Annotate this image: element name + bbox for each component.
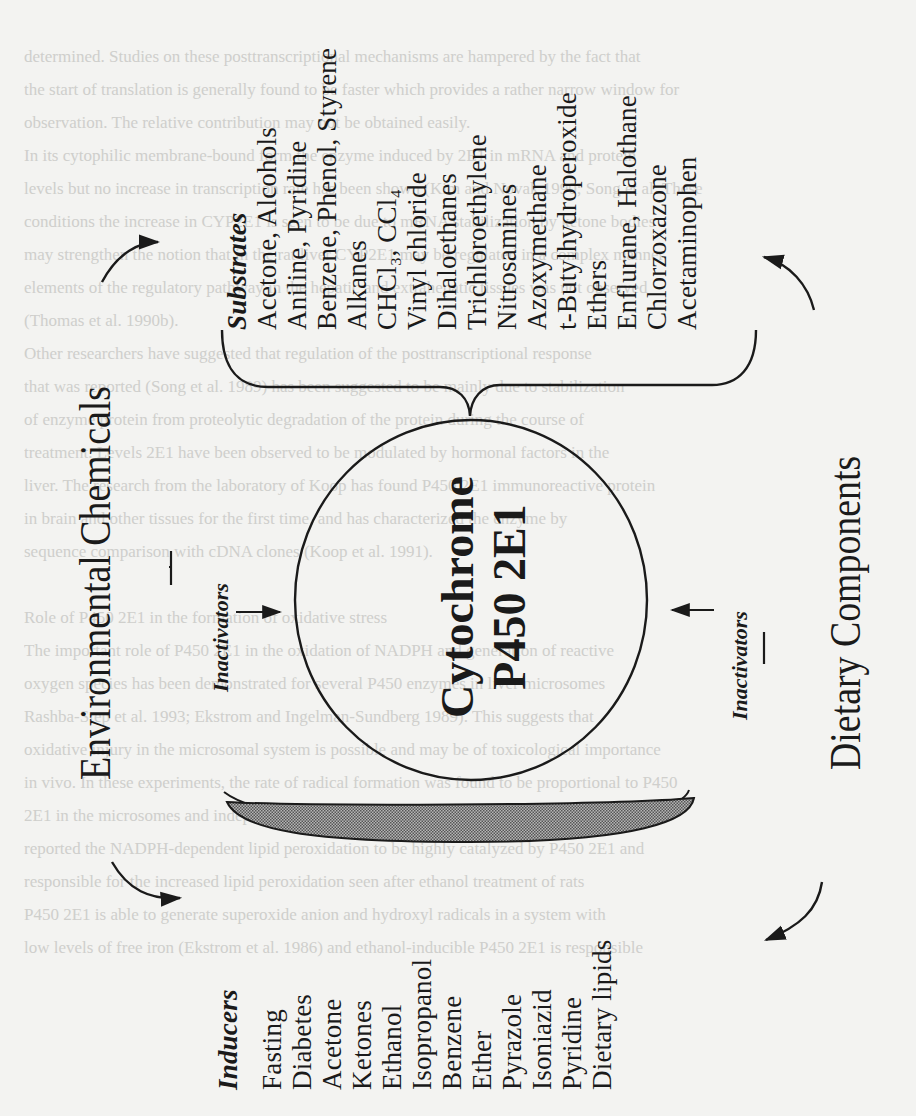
inactivators-right-label: Inactivators <box>727 611 753 720</box>
enzyme-label-line2: P450 2E1 <box>484 452 536 742</box>
substrate-item: Aniline, Pyridine <box>282 48 312 330</box>
membrane-lens <box>227 798 694 842</box>
substrate-item: Dihaloethanes <box>432 48 462 330</box>
substrate-item: Enflurane, Halothane <box>612 48 642 330</box>
substrate-item: Azoxymethane <box>522 48 552 330</box>
arrow-diet-to-inducers <box>766 882 822 940</box>
inducer-item: Dietary lipids <box>587 939 617 1090</box>
environmental-chemicals-label: Environmental Chemicals <box>70 386 121 780</box>
substrate-item: Benzene, Phenol, Styrene <box>312 48 342 330</box>
substrate-item: Vinyl chloride <box>402 48 432 330</box>
inducer-item: Pyrazole <box>497 939 527 1090</box>
inducers-heading: Inducers <box>213 939 243 1090</box>
inducer-item: Isopropanol <box>407 939 437 1090</box>
inducers-list: Inducers Fasting Diabetes Acetone Ketone… <box>213 939 617 1090</box>
substrates-list: Substrates Acetone, Alcohols Aniline, Py… <box>222 48 702 330</box>
substrate-item: Ethers <box>582 48 612 330</box>
inducer-item: Pyridine <box>557 939 587 1090</box>
substrate-item: Chlorzoxazone <box>642 48 672 330</box>
inducer-item: Diabetes <box>287 939 317 1090</box>
enzyme-label: Cytochrome P450 2E1 <box>432 452 536 742</box>
substrates-heading: Substrates <box>222 48 252 330</box>
inducer-item: Acetone <box>317 939 347 1090</box>
substrate-item: Trichloroethylene <box>462 48 492 330</box>
substrate-item: Acetaminophen <box>672 48 702 330</box>
inducer-item: Ketones <box>347 939 377 1090</box>
inducer-item: Benzene <box>437 939 467 1090</box>
substrate-item: Nitrosamines <box>492 48 522 330</box>
arrow-diet-to-substrates <box>764 257 814 310</box>
inducer-item: Isoniazid <box>527 939 557 1090</box>
substrate-item: Alkanes <box>342 48 372 330</box>
inducer-item: Ether <box>467 939 497 1090</box>
substrate-item: Acetone, Alcohols <box>252 48 282 330</box>
arrow-env-to-substrates <box>102 242 158 282</box>
dietary-components-label: Dietary Components <box>820 456 871 770</box>
substrate-item: CHCl₃, CCl₄ <box>372 48 402 330</box>
inducer-item: Ethanol <box>377 939 407 1090</box>
arrow-env-to-inducers <box>112 862 180 898</box>
substrates-brace <box>222 330 756 416</box>
inducer-item: Fasting <box>257 939 287 1090</box>
inactivators-left-label: Inactivators <box>208 583 234 692</box>
enzyme-label-line1: Cytochrome <box>432 452 484 742</box>
substrate-item: t-Butylhydroperoxide <box>552 48 582 330</box>
